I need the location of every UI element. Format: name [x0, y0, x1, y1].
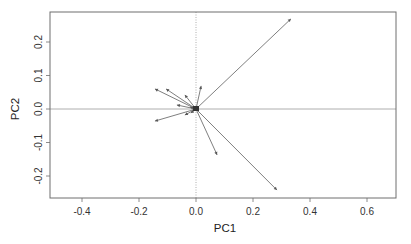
arrow-head-icon [177, 104, 180, 107]
loading-arrow [196, 19, 291, 109]
x-tick-label: -0.2 [130, 206, 148, 217]
x-tick-label: 0.0 [189, 206, 203, 217]
arrow-head-icon [199, 86, 202, 89]
y-tick-label: 0.1 [33, 68, 44, 82]
x-tick-label: 0.6 [360, 206, 374, 217]
loading-arrow [196, 109, 277, 190]
loading-arrow [196, 109, 217, 155]
y-tick-label: -0.1 [33, 133, 44, 151]
y-axis-title: PC2 [9, 98, 21, 120]
x-axis: -0.4-0.20.00.20.40.6 [73, 198, 374, 217]
y-tick-label: 0.0 [33, 102, 44, 116]
loading-arrows [155, 19, 291, 190]
x-tick-label: 0.2 [246, 206, 260, 217]
origin-cluster [193, 106, 199, 111]
plot-frame [50, 12, 396, 198]
y-tick-label: -0.2 [33, 167, 44, 185]
loading-arrow [155, 109, 196, 122]
x-tick-label: -0.4 [73, 206, 91, 217]
x-axis-title: PC1 [214, 222, 236, 234]
x-tick-label: 0.4 [303, 206, 317, 217]
y-axis: -0.2-0.10.00.10.2 [33, 35, 50, 185]
reference-lines [50, 12, 396, 198]
pca-biplot: -0.4-0.20.00.20.40.6 -0.2-0.10.00.10.2 P… [0, 0, 411, 244]
y-tick-label: 0.2 [33, 35, 44, 49]
loading-arrow [155, 89, 196, 109]
